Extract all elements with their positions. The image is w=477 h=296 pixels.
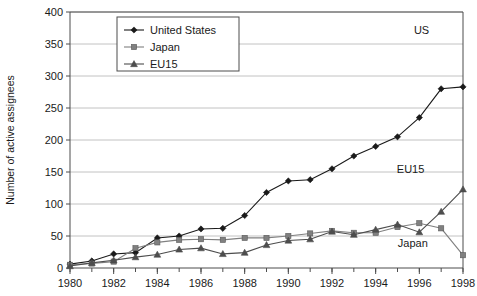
- series-marker-japan: [198, 237, 203, 242]
- x-tick-label: 1982: [101, 277, 125, 289]
- series-marker-eu15: [460, 186, 467, 192]
- y-tick-label: 350: [45, 38, 63, 50]
- series-marker-japan: [417, 221, 422, 226]
- y-tick-label: 50: [51, 230, 63, 242]
- y-tick-label: 0: [57, 262, 63, 274]
- series-marker-united-states: [351, 153, 357, 159]
- series-marker-japan: [155, 240, 160, 245]
- legend-marker-square-icon: [131, 44, 136, 49]
- series-marker-japan: [439, 226, 444, 231]
- x-tick-label: 1988: [232, 277, 256, 289]
- series-marker-japan: [460, 253, 465, 258]
- series-marker-japan: [220, 237, 225, 242]
- annotation-japan: Japan: [398, 237, 428, 249]
- y-axis-title: Number of active assignees: [4, 75, 16, 205]
- y-tick-label: 150: [45, 166, 63, 178]
- y-tick-label: 100: [45, 198, 63, 210]
- series-marker-united-states: [460, 84, 466, 90]
- annotation-us: US: [414, 24, 429, 36]
- annotation-eu15: EU15: [397, 163, 425, 175]
- series-marker-united-states: [307, 177, 313, 183]
- legend-label-japan: Japan: [150, 41, 180, 53]
- legend-label-united-states: United States: [150, 24, 217, 36]
- x-tick-label: 1984: [145, 277, 169, 289]
- y-tick-label: 300: [45, 70, 63, 82]
- series-marker-united-states: [373, 143, 379, 149]
- series-marker-united-states: [285, 178, 291, 184]
- y-tick-label: 200: [45, 134, 63, 146]
- series-marker-japan: [264, 235, 269, 240]
- x-tick-label: 1998: [451, 277, 475, 289]
- x-tick-label: 1992: [320, 277, 344, 289]
- series-marker-eu15: [394, 221, 401, 227]
- legend-label-eu15: EU15: [150, 58, 178, 70]
- series-marker-united-states: [198, 226, 204, 232]
- y-tick-label: 250: [45, 102, 63, 114]
- series-marker-united-states: [220, 225, 226, 231]
- y-tick-label: 400: [45, 6, 63, 18]
- series-marker-japan: [242, 235, 247, 240]
- chart-canvas: 0501001502002503003504001980198219841986…: [0, 0, 477, 296]
- series-marker-japan: [177, 237, 182, 242]
- x-tick-label: 1980: [58, 277, 82, 289]
- line-chart-active-assignees: 0501001502002503003504001980198219841986…: [0, 0, 477, 296]
- x-tick-label: 1990: [276, 277, 300, 289]
- series-line-eu15: [70, 189, 463, 266]
- x-tick-label: 1994: [363, 277, 387, 289]
- x-tick-label: 1986: [189, 277, 213, 289]
- x-tick-label: 1996: [407, 277, 431, 289]
- series-marker-united-states: [329, 166, 335, 172]
- series-marker-japan: [133, 246, 138, 251]
- series-marker-united-states: [111, 251, 117, 257]
